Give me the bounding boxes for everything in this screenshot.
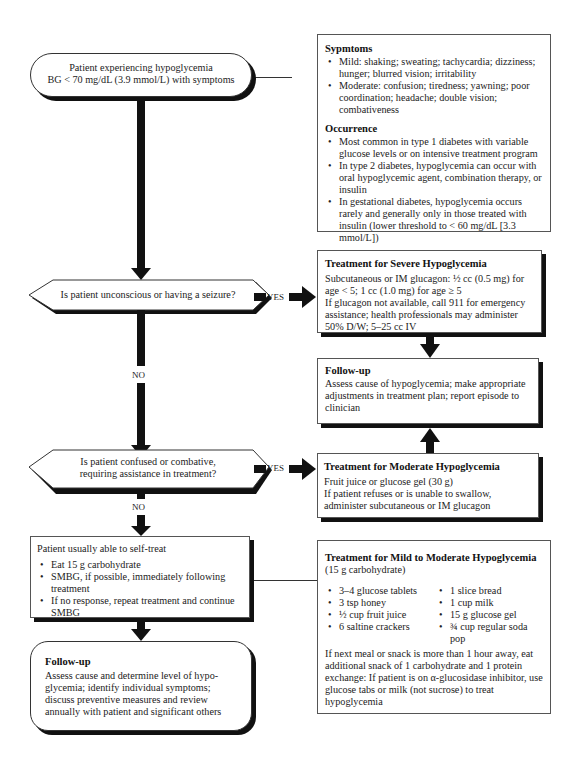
severe-treatment-box: Treatment for Severe Hypoglycemia Subcut… xyxy=(317,250,542,333)
decision2-question: Is patient confused or combative, requir… xyxy=(40,456,256,480)
moderate-title: Treatment for Moderate Hypoglycemia xyxy=(324,460,532,473)
food-item: ¾ cup regular soda pop xyxy=(450,621,543,645)
decision2-yes-label: YES xyxy=(267,463,284,473)
occurrence-list: Most common in type 1 diabetes with vari… xyxy=(325,136,543,244)
self-treat-item: Eat 15 g carbohydrate xyxy=(51,559,243,571)
moderate-treatment-box: Treatment for Moderate Hypoglycemia Frui… xyxy=(317,453,539,518)
arrowhead-down-icon xyxy=(131,526,151,536)
mild-food-col1: 3–4 glucose tablets 3 tsp honey ½ cup fr… xyxy=(325,585,432,645)
start-terminal: Patient experiencing hypoglycemia BG < 7… xyxy=(30,53,252,97)
followup-right-title: Follow-up xyxy=(325,364,531,377)
self-treat-list: Eat 15 g carbohydrate SMBG, if possible,… xyxy=(37,559,243,619)
self-treat-item: If no response, repeat treatment and con… xyxy=(51,595,243,619)
connector-selftreat-mild xyxy=(254,580,318,581)
mild-subtitle: (15 g carbohydrate) xyxy=(325,564,543,576)
mild-note: If next meal or snack is more than 1 hou… xyxy=(325,648,543,708)
food-item: 3–4 glucose tablets xyxy=(339,585,432,597)
yes1-shaft xyxy=(289,293,303,301)
followup-left-title: Follow-up xyxy=(45,655,237,668)
severe-line2: If glucagon not available, call 911 for … xyxy=(325,297,534,333)
mild-treatment-box: Treatment for Mild to Moderate Hypoglyce… xyxy=(317,540,551,714)
occurrence-item: In type 2 diabetes, hypoglycemia can occ… xyxy=(339,160,543,196)
followup-right-box: Follow-up Assess cause of hypoglycemia; … xyxy=(317,358,539,424)
decision2-no-label: NO xyxy=(132,502,145,512)
food-item: 3 tsp honey xyxy=(339,597,432,609)
arrow-shaft-start-decision1 xyxy=(137,97,145,269)
food-item: 6 saltine crackers xyxy=(339,621,432,633)
arrow-shaft-no1-lower xyxy=(137,383,145,446)
decision2-line1: Is patient confused or combative, xyxy=(40,456,256,468)
arrowhead-right-icon xyxy=(302,286,316,308)
decision1-no-label: NO xyxy=(132,370,145,380)
mild-title: Treatment for Mild to Moderate Hypoglyce… xyxy=(325,551,543,564)
followup-left-text: Assess cause and determine level of hypo… xyxy=(45,670,237,718)
decision2-line2: requiring assistance in treatment? xyxy=(40,468,256,480)
start-line1: Patient experiencing hypoglycemia xyxy=(31,62,251,74)
symptoms-list: Mild: shaking; sweating; tachycardia; di… xyxy=(325,56,543,116)
moderate-line1: Fruit juice or glucose gel (30 g) xyxy=(324,476,532,488)
symptoms-occurrence-box: Sypmtoms Mild: shaking; sweating; tachyc… xyxy=(317,34,551,232)
food-item: 1 slice bread xyxy=(450,585,543,597)
decision1-question: Is patient unconscious or having a seizu… xyxy=(40,289,256,301)
arrowhead-right-icon xyxy=(302,458,316,480)
symptoms-title: Sypmtoms xyxy=(325,42,543,55)
moderate-line2: If patient refuses or is unable to swall… xyxy=(324,488,532,512)
self-treat-item: SMBG, if possible, immediately following… xyxy=(51,571,243,595)
occurrence-item: Most common in type 1 diabetes with vari… xyxy=(339,136,543,160)
mild-food-lists: 3–4 glucose tablets 3 tsp honey ½ cup fr… xyxy=(325,585,543,645)
self-treat-heading: Patient usually able to self-treat xyxy=(37,543,243,555)
occurrence-title: Occurrence xyxy=(325,122,543,135)
decision1-yes-label: YES xyxy=(267,292,284,302)
yes2-stub xyxy=(254,465,266,473)
food-item: 15 g glucose gel xyxy=(450,609,543,621)
connector-start-symptoms xyxy=(250,77,292,78)
followup-left-box: Follow-up Assess cause and determine lev… xyxy=(30,641,252,731)
self-treat-box: Patient usually able to self-treat Eat 1… xyxy=(30,536,250,618)
food-item: 1 cup milk xyxy=(450,597,543,609)
yes2-shaft xyxy=(289,465,303,473)
occurrence-item: In gestational diabetes, hypoglycemia oc… xyxy=(339,196,543,244)
followup-right-text: Assess cause of hypoglycemia; make appro… xyxy=(325,378,531,414)
arrowhead-down-icon xyxy=(420,344,440,358)
start-line2: BG < 70 mg/dL (3.9 mmol/L) with symptoms xyxy=(31,74,251,86)
arrowhead-down-icon xyxy=(131,268,151,280)
mild-food-col2: 1 slice bread 1 cup milk 15 g glucose ge… xyxy=(432,585,543,645)
severe-line1: Subcutaneous or IM glucagon: ½ cc (0.5 m… xyxy=(325,273,534,297)
symptom-item: Mild: shaking; sweating; tachycardia; di… xyxy=(339,56,543,80)
severe-title: Treatment for Severe Hypoglycemia xyxy=(325,257,534,270)
arrow-shaft-no2-upper xyxy=(137,494,145,499)
yes1-stub xyxy=(254,293,266,301)
arrowhead-down-icon xyxy=(131,629,151,641)
symptom-item: Moderate: confusion; tiredness; yawning;… xyxy=(339,80,543,116)
food-item: ½ cup fruit juice xyxy=(339,609,432,621)
arrow-shaft-no1-upper xyxy=(137,310,145,366)
arrowhead-up-icon xyxy=(420,428,440,442)
